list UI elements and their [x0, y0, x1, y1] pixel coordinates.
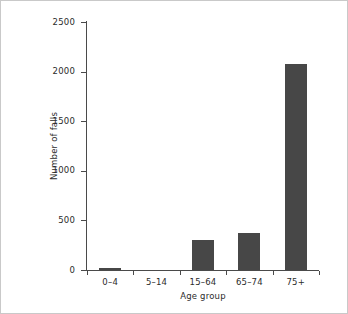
bar — [285, 64, 307, 270]
y-axis-tick — [81, 121, 86, 122]
x-axis-tick — [180, 271, 181, 275]
y-axis-tick — [81, 270, 86, 271]
chart-figure: 05001000150020002500 0–45–1415–6465–7475… — [0, 0, 348, 314]
x-axis-tick-label: 75+ — [266, 278, 326, 287]
x-axis-tick — [226, 271, 227, 275]
y-axis-tick — [81, 22, 86, 23]
x-axis-line — [86, 270, 319, 271]
bar — [238, 233, 260, 270]
y-axis-tick — [81, 72, 86, 73]
y-axis-tick-label: 2000 — [5, 67, 75, 76]
plot-area — [87, 22, 319, 270]
y-axis-tick-label: 2500 — [5, 18, 75, 27]
x-axis-tick — [133, 271, 134, 275]
y-axis-tick-label: 1500 — [5, 117, 75, 126]
x-axis-tick — [273, 271, 274, 275]
x-axis-title: Age group — [87, 292, 319, 301]
x-axis-tick — [87, 271, 88, 275]
y-axis-tick-label: 1000 — [5, 166, 75, 175]
x-axis-tick — [319, 271, 320, 275]
y-axis-tick — [81, 220, 86, 221]
y-axis-tick — [81, 171, 86, 172]
y-axis-tick-label: 0 — [5, 266, 75, 275]
bar — [99, 268, 121, 270]
y-axis-title: Number of falls — [47, 22, 61, 270]
bar — [192, 240, 214, 270]
y-axis-tick-label: 500 — [5, 216, 75, 225]
